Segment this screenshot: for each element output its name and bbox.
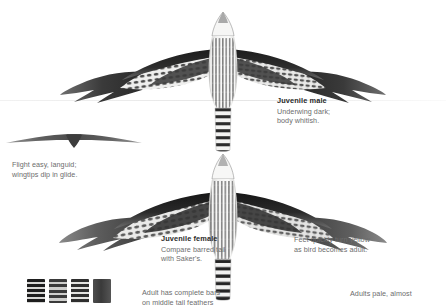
- juvenile-female-caption: Juvenile female Compare barred tail with…: [161, 234, 225, 264]
- juvenile-female-caption-line-1: Compare barred tail: [161, 245, 225, 255]
- juvenile-male-caption-line-1: Underwing dark;: [277, 107, 330, 117]
- adults-caption-line-1: Adults pale, almost: [350, 289, 412, 299]
- juvenile-female-caption-line-2: with Saker's.: [161, 254, 225, 264]
- tail-feather-caption-line-1: Adult has complete bars: [142, 288, 220, 298]
- feet-caption: Feet quickly turn yellow as bird becomes…: [294, 235, 370, 254]
- feet-caption-line-1: Feet quickly turn yellow: [294, 235, 370, 245]
- tail-feather-3: [71, 279, 89, 303]
- tail-feather-4: [93, 279, 111, 303]
- tail-feather-2: [49, 279, 67, 303]
- tail-feather-swatch-group: [27, 279, 111, 303]
- juvenile-male-caption: Juvenile male Underwing dark; body whiti…: [277, 96, 330, 126]
- tail-feather-1: [27, 279, 45, 303]
- juvenile-male-caption-line-2: body whitish.: [277, 116, 330, 126]
- adults-caption: Adults pale, almost: [350, 289, 412, 299]
- tail-feather-caption: Adult has complete bars on middle tail f…: [142, 288, 220, 305]
- tail-feather-caption-line-2: on middle tail feathers: [142, 298, 220, 305]
- juvenile-male-caption-heading: Juvenile male: [277, 96, 330, 106]
- body-streaking: [210, 38, 237, 108]
- section-divider: [0, 100, 446, 101]
- falcon-underwing-spread-icon: [58, 140, 388, 300]
- feet-caption-line-2: as bird becomes adult.: [294, 245, 370, 255]
- juvenile-female-bird-figure: [58, 140, 388, 300]
- juvenile-female-caption-heading: Juvenile female: [161, 234, 225, 244]
- field-guide-plate: Juvenile male Underwing dark; body whiti…: [0, 0, 446, 305]
